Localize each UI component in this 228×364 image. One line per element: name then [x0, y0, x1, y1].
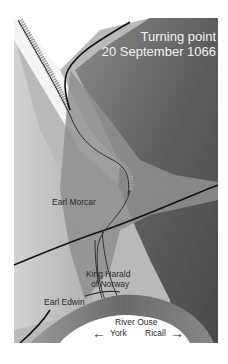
right-margin — [218, 0, 228, 364]
label-earl-edwin: Earl Edwin — [44, 298, 85, 307]
label-york: York — [110, 329, 127, 338]
right-arrow-icon: → — [170, 326, 184, 340]
label-river-ouse: River Ouse — [115, 318, 158, 327]
label-ricall: Ricall — [145, 329, 166, 338]
label-earl-morcar: Earl Morcar — [52, 198, 96, 207]
left-arrow-icon: ← — [92, 326, 106, 340]
title-line1: Turning point — [141, 30, 216, 43]
label-king-harald-1: King Harald — [86, 270, 130, 279]
bottom-margin — [0, 343, 228, 364]
title-line2: 20 September 1066 — [102, 45, 216, 58]
label-king-harald-2: of Norway — [91, 280, 129, 289]
